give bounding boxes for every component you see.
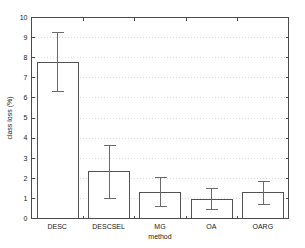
- x-tick-label-oa: OA: [206, 223, 216, 230]
- x-axis-tick-labels: DESCDESCSELMGOAOARG: [47, 223, 273, 230]
- y-axis-label: class loss (%): [6, 96, 14, 139]
- figure-canvas: 012345678910 DESCDESCSELMGOAOARG method …: [0, 0, 305, 248]
- y-tick-label-5: 5: [24, 114, 28, 121]
- y-tick-label-9: 9: [24, 34, 28, 41]
- y-tick-label-2: 2: [24, 175, 28, 182]
- y-axis-tick-labels: 012345678910: [20, 14, 28, 222]
- x-axis-label: method: [148, 233, 171, 240]
- x-tick-label-desc: DESC: [47, 223, 66, 230]
- y-tick-label-0: 0: [24, 215, 28, 222]
- x-tick-label-oarg: OARG: [252, 223, 273, 230]
- y-tick-label-4: 4: [24, 134, 28, 141]
- x-tick-label-mg: MG: [154, 223, 165, 230]
- y-tick-label-10: 10: [20, 14, 28, 21]
- y-tick-label-3: 3: [24, 155, 28, 162]
- y-tick-label-8: 8: [24, 54, 28, 61]
- y-tick-label-7: 7: [24, 74, 28, 81]
- y-tick-label-1: 1: [24, 195, 28, 202]
- error-bars: [52, 33, 270, 210]
- x-tick-label-descsel: DESCSEL: [92, 223, 125, 230]
- y-tick-label-6: 6: [24, 94, 28, 101]
- bar-chart-plot: 012345678910 DESCDESCSELMGOAOARG method …: [0, 0, 305, 248]
